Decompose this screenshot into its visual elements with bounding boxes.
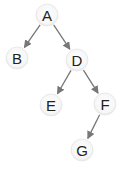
edge-f-g [88,115,100,139]
node-label: G [76,142,88,159]
node-label: E [46,97,56,114]
node-f: F [94,93,116,115]
nodes-group: ABDEFG [6,4,116,161]
edge-a-d [54,25,70,49]
node-label: A [42,7,52,24]
node-label: D [72,52,83,69]
edge-d-e [58,70,71,93]
node-e: E [40,94,62,116]
tree-diagram: ABDEFG [0,0,124,170]
node-a: A [36,4,58,26]
edge-d-f [83,70,98,93]
edges-group [24,25,99,139]
edge-a-b [24,25,40,47]
node-label: F [100,96,109,113]
node-b: B [6,47,28,69]
node-g: G [71,139,93,161]
node-label: B [12,50,22,67]
node-d: D [66,49,88,71]
